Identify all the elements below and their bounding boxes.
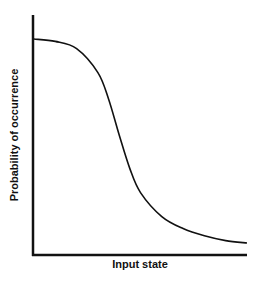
- chart-container: Input state Probability of occurrence: [0, 0, 264, 285]
- y-axis-label: Probability of occurrence: [8, 69, 20, 202]
- probability-curve: [34, 39, 247, 243]
- sigmoid-chart: [0, 0, 264, 285]
- x-axis-label: Input state: [33, 258, 247, 270]
